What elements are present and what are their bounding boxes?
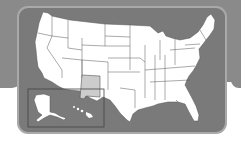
state-new-mexico — [80, 75, 100, 99]
continental-us — [35, 12, 215, 122]
us-map — [0, 0, 241, 145]
state-hawaii — [73, 106, 93, 118]
state-alaska — [34, 94, 66, 122]
